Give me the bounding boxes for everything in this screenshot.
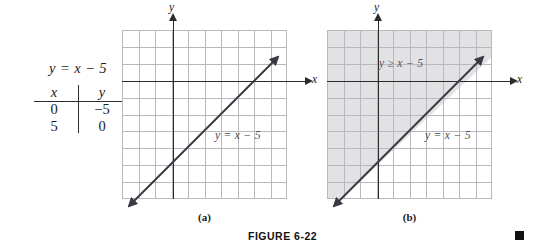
table-header-y: y bbox=[78, 84, 126, 101]
table-cell-x: 0 bbox=[30, 101, 78, 118]
x-axis-label: x bbox=[312, 73, 317, 85]
panel-caption-b: (b) bbox=[327, 211, 492, 223]
grid-a: y x y = x − 5 bbox=[122, 30, 287, 199]
y-axis-label: y bbox=[374, 1, 379, 13]
equation-table-block: y = x − 5 x y 0 −5 5 0 bbox=[30, 60, 126, 135]
table-header-x: x bbox=[30, 84, 78, 101]
x-axis-label: x bbox=[517, 73, 522, 85]
line-equation-label-b: y = x − 5 bbox=[425, 129, 471, 141]
table-header-rule bbox=[34, 101, 122, 102]
line-graph-a bbox=[122, 18, 322, 218]
table-cell-x: 5 bbox=[30, 118, 78, 135]
figure-6-22: y = x − 5 x y 0 −5 5 0 bbox=[0, 0, 541, 250]
value-table: x y 0 −5 5 0 bbox=[30, 84, 126, 135]
line-graph-b bbox=[327, 18, 527, 218]
graph-panel-b: y x y ≥ x − 5 y = x − 5 (b) bbox=[327, 30, 492, 199]
line-equation-label-a: y = x − 5 bbox=[215, 129, 261, 141]
table-cell-y: −5 bbox=[78, 101, 126, 118]
equation-heading: y = x − 5 bbox=[30, 60, 126, 77]
end-of-figure-square-icon bbox=[515, 231, 524, 240]
table-cell-y: 0 bbox=[78, 118, 126, 135]
inequality-region-label: y ≥ x − 5 bbox=[379, 57, 423, 69]
table-vertical-rule bbox=[78, 85, 79, 133]
graph-panel-a: y x y = x − 5 (a) bbox=[122, 30, 287, 199]
figure-caption: FIGURE 6-22 bbox=[248, 230, 317, 242]
panel-caption-a: (a) bbox=[122, 211, 287, 223]
y-axis-label: y bbox=[169, 1, 174, 13]
grid-b: y x y ≥ x − 5 y = x − 5 bbox=[327, 30, 492, 199]
